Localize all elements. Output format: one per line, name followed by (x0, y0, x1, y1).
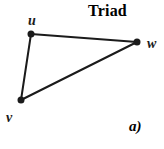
edge-u-v (21, 34, 31, 100)
triad-diagram: uwv Triad a) (0, 0, 164, 149)
figure-caption: a) (129, 118, 142, 135)
node-label-u: u (28, 13, 36, 28)
node-label-w: w (147, 36, 157, 51)
node-u (28, 31, 35, 38)
edge-u-w (31, 34, 137, 42)
edge-v-w (21, 42, 137, 100)
node-w (134, 39, 141, 46)
diagram-title: Triad (88, 2, 127, 20)
node-label-v: v (6, 110, 13, 125)
node-v (18, 97, 25, 104)
